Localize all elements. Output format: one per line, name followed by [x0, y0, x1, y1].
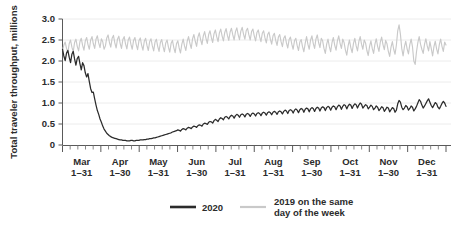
x-tick-label-range: 1–31 [148, 167, 170, 178]
x-tick-label-range: 1–31 [71, 167, 93, 178]
x-tick-label-month: Sep [303, 156, 321, 167]
y-tick-label: 2.5 [42, 34, 56, 45]
x-tick-label-range: 1–30 [109, 167, 130, 178]
y-tick-label: 0 [50, 139, 55, 150]
x-tick-label-month: Dec [418, 156, 435, 167]
x-tick-label-range: 1–30 [301, 167, 322, 178]
y-tick-label: 1.5 [42, 76, 56, 87]
x-tick-label-range: 1–31 [225, 167, 247, 178]
x-tick-label-month: Mar [73, 156, 90, 167]
y-axis-title: Total traveler throughput, millions [8, 5, 19, 158]
x-tick-label-range: 1–31 [340, 167, 362, 178]
x-tick-label-month: Nov [379, 156, 398, 167]
x-tick-label-range: 1–31 [263, 167, 285, 178]
y-tick-label: 0.5 [42, 118, 56, 129]
x-tick-label-month: Jun [188, 156, 205, 167]
x-tick-label-range: 1–31 [416, 167, 438, 178]
chart-figure: 00.51.01.52.02.53.0 Mar1–31Apr1–30May1–3… [0, 0, 459, 233]
y-tick-label: 3.0 [42, 13, 55, 24]
x-tick-label-month: Apr [112, 156, 129, 167]
y-axis-title-text: Total traveler throughput, millions [8, 5, 19, 158]
x-tick-label-range: 1–30 [378, 167, 399, 178]
legend-label-2019-line2: day of the week [274, 207, 345, 218]
y-tick-label: 2.0 [42, 55, 55, 66]
y-tick-label: 1.0 [42, 97, 55, 108]
legend-label-2019-line1: 2019 on the same [274, 196, 353, 207]
traveler-throughput-line-chart: 00.51.01.52.02.53.0 Mar1–31Apr1–30May1–3… [0, 0, 459, 233]
x-tick-label-month: Oct [342, 156, 359, 167]
x-tick-label-range: 1–30 [186, 167, 207, 178]
x-tick-label-month: May [149, 156, 168, 167]
legend-label-2020: 2020 [202, 202, 223, 213]
x-tick-label-month: Jul [228, 156, 242, 167]
x-tick-label-month: Aug [264, 156, 283, 167]
